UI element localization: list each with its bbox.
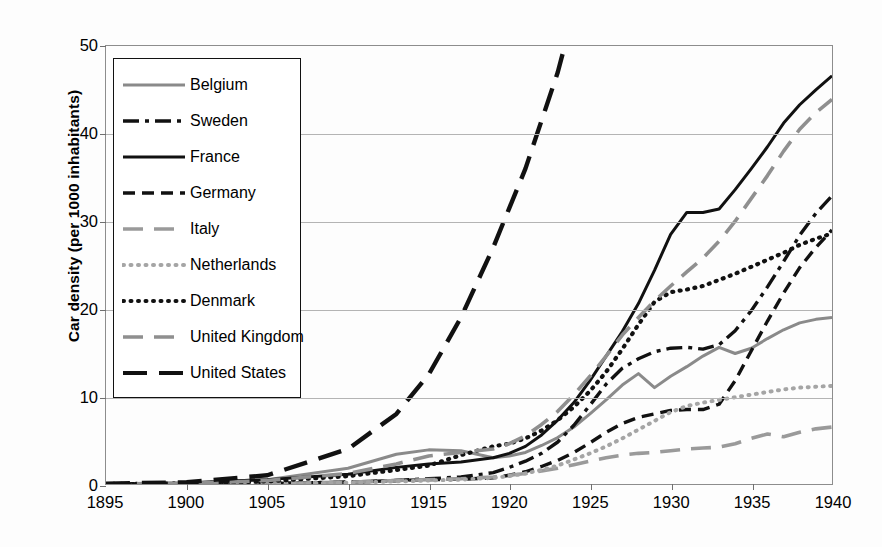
x-axis-tick-1900: 1900: [146, 492, 226, 512]
y-tick-mark-50: [100, 46, 106, 47]
legend-label: Netherlands: [190, 257, 276, 273]
legend-item-italy[interactable]: Italy: [122, 211, 294, 247]
legend-item-denmark[interactable]: Denmark: [122, 283, 294, 319]
x-axis-tick-1930: 1930: [631, 492, 711, 512]
y-tick-mark-20: [100, 310, 106, 311]
chart-legend: BelgiumSwedenFranceGermanyItalyNetherlan…: [113, 58, 301, 398]
y-tick-mark-0: [100, 486, 106, 487]
x-axis-tick-1920: 1920: [469, 492, 549, 512]
y-tick-mark-40: [100, 134, 106, 135]
legend-label: Belgium: [190, 77, 248, 93]
x-tick-mark-1915: [430, 484, 431, 490]
legend-item-france[interactable]: France: [122, 139, 294, 175]
legend-item-germany[interactable]: Germany: [122, 175, 294, 211]
y-axis-tick-20: 20: [44, 301, 98, 317]
legend-item-sweden[interactable]: Sweden: [122, 103, 294, 139]
y-axis-tick-labels: 01020304050: [40, 0, 98, 547]
x-tick-mark-1910: [349, 484, 350, 490]
legend-item-united-states[interactable]: United States: [122, 355, 294, 391]
x-tick-mark-1905: [268, 484, 269, 490]
x-axis-tick-1905: 1905: [227, 492, 307, 512]
x-axis-tick-1915: 1915: [389, 492, 469, 512]
y-axis-tick-0: 0: [44, 477, 98, 493]
legend-item-united-kingdom[interactable]: United Kingdom: [122, 319, 294, 355]
x-tick-mark-1935: [753, 484, 754, 490]
legend-swatch-icon: [122, 294, 186, 308]
gridline-y-10: [106, 398, 832, 399]
legend-label: United States: [190, 365, 286, 381]
x-tick-mark-1900: [187, 484, 188, 490]
legend-swatch-icon: [122, 366, 186, 380]
x-tick-mark-1925: [591, 484, 592, 490]
x-tick-mark-1920: [510, 484, 511, 490]
y-tick-mark-10: [100, 398, 106, 399]
legend-label: Sweden: [190, 113, 248, 129]
x-axis-tick-1940: 1940: [793, 492, 873, 512]
legend-swatch-icon: [122, 330, 186, 344]
y-axis-tick-50: 50: [44, 37, 98, 53]
legend-swatch-icon: [122, 114, 186, 128]
legend-label: United Kingdom: [190, 329, 304, 345]
y-axis-tick-10: 10: [44, 389, 98, 405]
legend-swatch-icon: [122, 186, 186, 200]
legend-item-netherlands[interactable]: Netherlands: [122, 247, 294, 283]
legend-swatch-icon: [122, 222, 186, 236]
chart-figure: Car density (per 1000 inhabitants) 01020…: [0, 0, 882, 547]
y-axis-tick-30: 30: [44, 213, 98, 229]
x-axis-tick-1910: 1910: [308, 492, 388, 512]
x-axis-tick-1925: 1925: [550, 492, 630, 512]
legend-swatch-icon: [122, 150, 186, 164]
y-axis-tick-40: 40: [44, 125, 98, 141]
legend-swatch-icon: [122, 78, 186, 92]
x-axis-tick-1935: 1935: [712, 492, 792, 512]
legend-swatch-icon: [122, 258, 186, 272]
x-tick-mark-1930: [672, 484, 673, 490]
legend-label: France: [190, 149, 240, 165]
x-axis-tick-1895: 1895: [65, 492, 145, 512]
legend-item-belgium[interactable]: Belgium: [122, 67, 294, 103]
legend-label: Germany: [190, 185, 256, 201]
legend-label: Italy: [190, 221, 219, 237]
y-tick-mark-30: [100, 222, 106, 223]
legend-label: Denmark: [190, 293, 255, 309]
x-axis-tick-labels: 1895190019051910191519201925193019351940: [0, 492, 882, 522]
